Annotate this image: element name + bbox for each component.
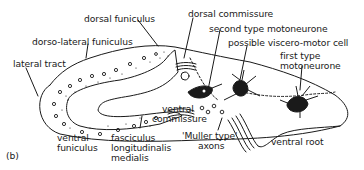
leader-muller	[218, 118, 222, 130]
spinal-cord-diagram: dorsal funiculus dorso-lateral funiculus…	[0, 0, 364, 170]
label-dorsal-commissure: dorsal commissure	[188, 9, 273, 19]
first-type-motoneurone-soma	[287, 97, 308, 112]
leader-lateral-tract	[26, 68, 38, 96]
label-flm-line3: medialis	[111, 153, 149, 163]
label-dorsal-funiculus: dorsal funiculus	[84, 14, 155, 24]
label-dorso-lateral-funiculus: dorso-lateral funiculus	[32, 37, 133, 47]
label-lateral-tract: lateral tract	[13, 59, 66, 69]
second-type-motoneurone-soma	[188, 86, 212, 98]
label-muller-axons-line2: axons	[198, 141, 225, 151]
label-second-type-motoneurone: second type motoneurone	[209, 24, 328, 34]
label-viscero-motor-cell: possible viscero-motor cell	[228, 38, 348, 48]
panel-label: (b)	[6, 151, 19, 161]
dorsal-commissure-arcs	[176, 63, 196, 71]
central-canal	[181, 72, 189, 80]
label-ventral-funiculus-line2: funiculus	[57, 143, 98, 153]
leader-second-motoneurone	[208, 30, 220, 90]
viscero-motor-soma	[233, 80, 248, 96]
label-first-type-motoneurone-line2: motoneurone	[280, 61, 341, 71]
label-ventral-commissure-line2: commissure	[152, 114, 207, 124]
label-ventral-root: ventral root	[271, 137, 324, 147]
leader-dorsal-commissure	[184, 18, 193, 58]
second-type-motoneurone-nucleus	[203, 90, 206, 93]
